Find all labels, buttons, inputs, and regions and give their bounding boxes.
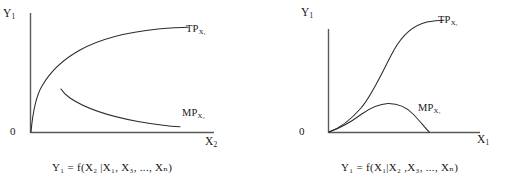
x-axis-label-right: X1 bbox=[477, 134, 489, 146]
origin-label-left: 0 bbox=[10, 126, 16, 137]
curve-tp-left-artifact bbox=[122, 37, 128, 38]
caption-left: Y₁ = f(X₂ |X₁, X₃, ..., Xₙ) bbox=[52, 162, 172, 173]
curve-label-mp-left: MPX₂ bbox=[182, 108, 205, 119]
production-function-figure: Y1 X2 0 TPX₁ MPX₂ Y₁ = f(X₂ |X₁, X₃, ...… bbox=[0, 0, 510, 191]
origin-label-right: 0 bbox=[299, 126, 305, 137]
caption-right: Y₁ = f(X₁|X₂ ,X₃, ..., Xₙ) bbox=[341, 162, 458, 173]
x-axis-label-left: X2 bbox=[205, 136, 217, 148]
curve-mp-left bbox=[61, 89, 180, 127]
chart-panel-left: Y1 X2 0 TPX₁ MPX₂ Y₁ = f(X₂ |X₁, X₃, ...… bbox=[0, 0, 255, 191]
curve-label-mp-right: MPX₁ bbox=[418, 103, 441, 114]
curve-tp-right bbox=[329, 20, 444, 132]
curve-label-tp-left: TPX₁ bbox=[186, 24, 206, 35]
y-axis-label-right: Y1 bbox=[301, 7, 313, 19]
curve-mp-right bbox=[329, 104, 430, 133]
curve-tp-left bbox=[31, 27, 188, 132]
y-axis-label-left: Y1 bbox=[3, 8, 15, 20]
chart-panel-right: Y1 X1 0 TPX₁ MPX₁ Y₁ = f(X₁|X₂ ,X₃, ...,… bbox=[255, 0, 510, 191]
curve-label-tp-right: TPX₁ bbox=[438, 15, 458, 26]
